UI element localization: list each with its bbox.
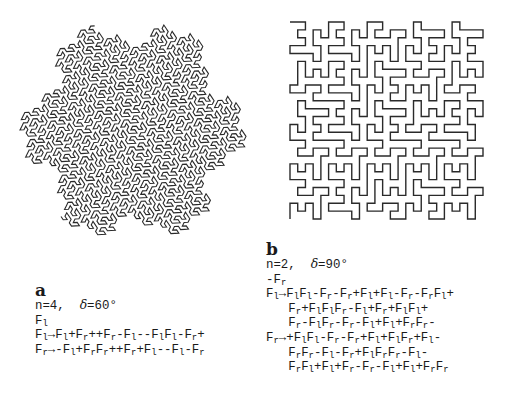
- panel-a-line-2: Fl→Fl+Fr++Fr-Fl--FlFl-Fr+: [35, 328, 205, 343]
- figure-a-gosper-curve: [0, 0, 270, 280]
- panel-b-line-0: n=2, δ=90°: [266, 257, 454, 273]
- panel-b-line-7: FrFl+Fl+Fr-Fr-Fl+Fl+FrFr: [266, 360, 454, 375]
- panel-a-lsystem-text: n=4, δ=60°FlFl→Fl+Fr++Fr-Fl--FlFl-Fr+Fr→…: [35, 298, 205, 357]
- panel-a-line-1: Fl: [35, 314, 205, 329]
- panel-b-lsystem-text: n=2, δ=90°-FrFl→FlFl-Fr-Fr+Fl+Fl-Fr-FrFl…: [266, 257, 454, 375]
- panel-b-line-3: Fr+FlFlFr-Fl+Fr+FlFl+: [266, 302, 454, 317]
- panel-b-line-4: Fr-FlFr-Fr-Fl+Fl+FrFr-: [266, 316, 454, 331]
- peano-curve-drawing: [270, 0, 510, 235]
- panel-a-line-3: Fr→-Fl+FrFr++Fr+Fl--Fl-Fr: [35, 343, 205, 358]
- gosper-curve-drawing: [0, 0, 270, 280]
- panel-b-line-5: Fr→+FlFl-Fr-Fr+Fl+FlFr+Fl-: [266, 331, 454, 346]
- panel-a-label: a: [35, 282, 46, 299]
- panel-b-line-2: Fl→FlFl-Fr-Fr+Fl+Fl-Fr-FrFl+: [266, 287, 454, 302]
- panel-a-line-0: n=4, δ=60°: [35, 298, 205, 314]
- panel-b-line-1: -Fr: [266, 273, 454, 288]
- panel-b-label: b: [266, 241, 278, 258]
- figure-b-peano-curve: [270, 0, 510, 235]
- panel-b-line-6: FrFr-Fl-Fr+FlFrFr-Fl-: [266, 346, 454, 361]
